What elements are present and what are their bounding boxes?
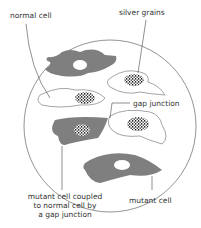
label-gap-junction: gap junction xyxy=(133,99,180,108)
label-mutant-cell: mutant cell xyxy=(129,196,172,205)
label-normal-cell: normal cell xyxy=(10,11,52,20)
label-silver-grains: silver grains xyxy=(119,8,165,17)
label-mutant-coupled: mutant cell coupled to normal cell by a … xyxy=(20,192,110,219)
